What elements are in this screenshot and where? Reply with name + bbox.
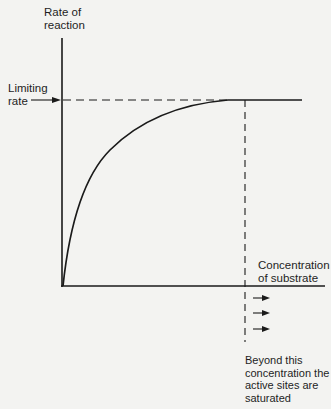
diagram-page: Rate of reaction Limiting rate Concentra…	[0, 0, 331, 409]
arrow-right-icon	[253, 326, 270, 332]
rate-vs-concentration-diagram	[0, 0, 331, 409]
limiting-rate-label: Limiting rate	[8, 82, 48, 108]
saturation-note: Beyond this concentration the active sit…	[245, 354, 329, 404]
arrow-right-icon	[253, 310, 270, 316]
y-axis-label: Rate of reaction	[44, 6, 85, 32]
x-axis-label: Concentration of substrate	[258, 259, 330, 285]
arrow-right-icon	[253, 295, 270, 301]
